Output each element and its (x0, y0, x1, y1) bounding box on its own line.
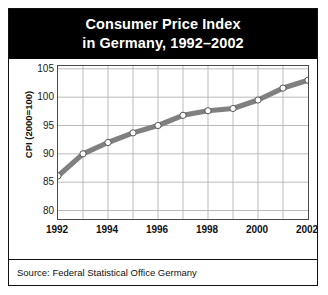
data-point-marker (305, 77, 308, 83)
chart-title-band: Consumer Price Index in Germany, 1992–20… (9, 9, 317, 59)
x-axis-tick-label: 1996 (137, 224, 177, 235)
x-axis-tick-label: 2000 (237, 224, 277, 235)
plot-wrapper: CPI (2000=100) 10510095908580 1992199419… (9, 59, 317, 259)
data-point-marker (280, 85, 286, 91)
data-point-marker (155, 122, 161, 128)
data-point-marker (230, 105, 236, 111)
y-axis-tick-label: 85 (24, 176, 54, 187)
line-chart-svg (58, 66, 308, 219)
data-point-marker (205, 108, 211, 114)
source-note: Source: Federal Statistical Office Germa… (9, 267, 197, 278)
x-axis-tick-label: 1994 (87, 224, 127, 235)
page-title-line-1: Consumer Price Index (85, 15, 240, 34)
x-axis-tick-label: 1998 (187, 224, 227, 235)
y-axis-tick-label: 95 (24, 119, 54, 130)
y-axis-tick-label: 90 (24, 147, 54, 158)
plot-canvas (57, 65, 309, 220)
source-band: Source: Federal Statistical Office Germa… (9, 259, 317, 285)
data-point-marker (255, 97, 261, 103)
page-title-line-2: in Germany, 1992–2002 (82, 34, 243, 53)
x-axis-tick-label: 1992 (37, 224, 77, 235)
y-axis-tick-label: 100 (24, 91, 54, 102)
x-axis-tick-labels: 199219941996199820002002 (57, 224, 309, 244)
x-axis-tick-label: 2002 (287, 224, 327, 235)
y-axis-tick-label: 80 (24, 204, 54, 215)
data-point-marker (80, 151, 86, 157)
data-point-marker (180, 112, 186, 118)
chart-figure: Consumer Price Index in Germany, 1992–20… (8, 8, 318, 286)
data-point-marker (130, 130, 136, 136)
data-point-marker (58, 173, 61, 179)
data-point-marker (105, 139, 111, 145)
y-axis-tick-label: 105 (24, 62, 54, 73)
chart-plot-area: CPI (2000=100) 10510095908580 1992199419… (9, 59, 317, 259)
